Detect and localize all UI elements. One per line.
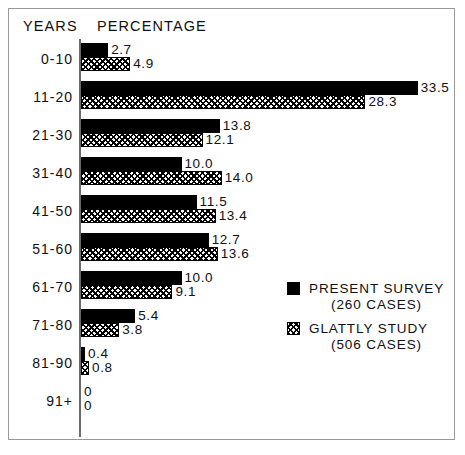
bar-61-70-glattly-study — [81, 285, 172, 299]
bar-value-label: 13.6 — [218, 247, 250, 261]
legend-item-present-survey: PRESENT SURVEY (260 CASES) — [287, 281, 465, 312]
category-label-51-60: 51-60 — [9, 241, 73, 257]
bar-31-40-present-survey — [81, 157, 182, 171]
bar-value-label: 33.5 — [418, 81, 450, 95]
category-label-71-80: 71-80 — [9, 317, 73, 333]
bar-value-label: 9.1 — [172, 285, 196, 299]
bar-row: 31-4010.014.0 — [9, 155, 456, 193]
bar-value-label: 10.0 — [182, 271, 214, 285]
category-label-21-30: 21-30 — [9, 127, 73, 143]
legend-label-glattly-study: GLATTLY STUDY — [309, 321, 428, 336]
bar-81-90-glattly-study — [81, 361, 89, 375]
bar-71-80-glattly-study — [81, 323, 119, 337]
category-label-41-50: 41-50 — [9, 203, 73, 219]
bar-value-label: 0.4 — [85, 347, 109, 361]
bar-0-10-glattly-study — [81, 57, 130, 71]
bar-value-label: 0.8 — [89, 361, 113, 375]
bar-value-label: 12.1 — [203, 133, 235, 147]
bar-value-label: 2.7 — [108, 43, 132, 57]
category-label-81-90: 81-90 — [9, 355, 73, 371]
bar-51-60-glattly-study — [81, 247, 218, 261]
legend-sub-glattly-study: (506 CASES) — [331, 337, 465, 352]
bar-0-10-present-survey — [81, 43, 108, 57]
percentage-column-header: PERCENTAGE — [97, 18, 207, 34]
bar-value-label: 10.0 — [182, 157, 214, 171]
category-label-11-20: 11-20 — [9, 89, 73, 105]
years-column-header: YEARS — [23, 18, 78, 34]
category-label-61-70: 61-70 — [9, 279, 73, 295]
category-label-91+: 91+ — [9, 393, 73, 409]
bar-21-30-present-survey — [81, 119, 220, 133]
category-label-0-10: 0-10 — [9, 51, 73, 67]
bar-11-20-present-survey — [81, 81, 418, 95]
plot-area: 0-102.74.911-2033.528.321-3013.812.131-4… — [9, 39, 456, 439]
bar-11-20-glattly-study — [81, 95, 365, 109]
bar-value-label: 14.0 — [222, 171, 254, 185]
bar-value-label: 5.4 — [135, 309, 159, 323]
bar-row: 41-5011.513.4 — [9, 193, 456, 231]
bar-row: 21-3013.812.1 — [9, 117, 456, 155]
bar-value-label: 3.8 — [119, 323, 143, 337]
chart-frame: YEARS PERCENTAGE 0-102.74.911-2033.528.3… — [8, 8, 455, 440]
bar-value-label: 0 — [81, 385, 92, 399]
category-label-31-40: 31-40 — [9, 165, 73, 181]
bar-value-label: 28.3 — [365, 95, 397, 109]
solid-black-square-icon — [287, 282, 300, 295]
bar-value-label: 12.7 — [209, 233, 241, 247]
crosshatch-square-icon — [287, 322, 300, 335]
bar-row: 11-2033.528.3 — [9, 79, 456, 117]
bar-row: 91+00 — [9, 383, 456, 421]
legend-label-present-survey: PRESENT SURVEY — [309, 281, 444, 296]
bar-value-label: 11.5 — [197, 195, 228, 209]
legend-sub-present-survey: (260 CASES) — [331, 297, 465, 312]
bar-71-80-present-survey — [81, 309, 135, 323]
bar-61-70-present-survey — [81, 271, 182, 285]
bar-value-label: 13.8 — [220, 119, 252, 133]
bar-row: 51-6012.713.6 — [9, 231, 456, 269]
bar-value-label: 4.9 — [130, 57, 154, 71]
bar-41-50-present-survey — [81, 195, 197, 209]
bar-value-label: 13.4 — [216, 209, 248, 223]
bar-21-30-glattly-study — [81, 133, 203, 147]
bar-51-60-present-survey — [81, 233, 209, 247]
bar-31-40-glattly-study — [81, 171, 222, 185]
bar-41-50-glattly-study — [81, 209, 216, 223]
bar-value-label: 0 — [81, 399, 92, 413]
chart-legend: PRESENT SURVEY (260 CASES) GLATTLY STUDY… — [287, 281, 465, 361]
legend-item-glattly-study: GLATTLY STUDY (506 CASES) — [287, 321, 465, 352]
bar-row: 0-102.74.9 — [9, 41, 456, 79]
